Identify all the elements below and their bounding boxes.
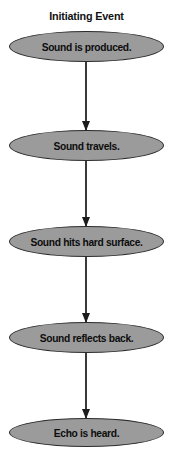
- flowchart-diagram: Initiating Event Sound is produced. Soun…: [0, 0, 173, 458]
- page-title: Initiating Event: [5, 9, 168, 23]
- flowchart-node[interactable]: Sound is produced.: [9, 31, 164, 62]
- flowchart-connector-arrow: [85, 161, 88, 226]
- flowchart-node-label: Sound reflects back.: [14, 322, 158, 353]
- connector-line: [85, 62, 87, 130]
- flowchart-node[interactable]: Sound reflects back.: [9, 322, 164, 353]
- flowchart-node-label: Sound hits hard surface.: [14, 226, 158, 257]
- flowchart-node-label: Sound travels.: [14, 130, 158, 161]
- flowchart-node-label: Sound is produced.: [14, 31, 158, 62]
- flowchart-node[interactable]: Echo is heard.: [9, 418, 164, 447]
- flowchart-connector-arrow: [85, 257, 88, 322]
- flowchart-connector-arrow: [85, 62, 88, 130]
- flowchart-connector-arrow: [85, 353, 88, 418]
- flowchart-node[interactable]: Sound hits hard surface.: [9, 226, 164, 257]
- flowchart-node-label: Echo is heard.: [14, 418, 158, 447]
- flowchart-node[interactable]: Sound travels.: [9, 130, 164, 161]
